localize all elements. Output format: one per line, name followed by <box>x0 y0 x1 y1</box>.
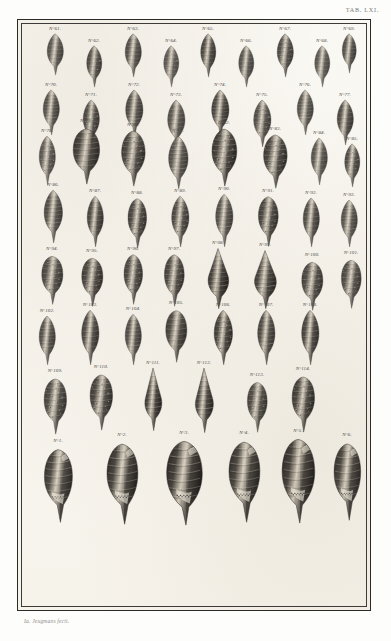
engraver-signature: Ia. Jeugmans fecit. <box>24 618 69 624</box>
shell-illustration <box>122 196 152 250</box>
plate-figure: N°102. <box>32 308 62 366</box>
figure-number-label: N°103. <box>83 302 98 307</box>
plate-figure: N°104. <box>118 306 148 366</box>
plate-figure: N°105. <box>160 300 192 364</box>
shell-illustration <box>40 32 70 76</box>
figure-number-label: N°2. <box>117 432 127 437</box>
shell-illustration <box>160 436 208 526</box>
plate-figure: N°87. <box>80 188 110 248</box>
figure-number-label: N°111. <box>146 360 160 365</box>
figure-number-label: N°110. <box>94 364 108 369</box>
plate-figure: N°64. <box>157 38 185 88</box>
shell-illustration <box>256 132 294 190</box>
figure-number-label: N°5. <box>293 428 303 433</box>
shell-illustration <box>36 252 68 306</box>
shell-illustration <box>290 88 320 136</box>
figure-number-label: N°70. <box>45 82 57 87</box>
figure-number-label: N°88. <box>131 190 143 195</box>
plate-figure: N°111. <box>136 360 170 432</box>
figure-number-label: N°65. <box>202 26 214 31</box>
figure-number-label: N°1. <box>53 438 63 443</box>
plate-figure: N°91. <box>252 188 284 248</box>
shell-illustration <box>294 308 326 366</box>
shell-illustration <box>38 374 72 436</box>
shell-illustration <box>246 248 284 310</box>
shell-illustration <box>336 32 362 74</box>
figure-number-label: N°80. <box>127 122 139 127</box>
figure-number-label: N°114. <box>296 366 310 371</box>
plate-figure: N°108. <box>294 302 326 366</box>
figure-number-label: N°112. <box>197 360 211 365</box>
shell-illustration <box>160 306 192 364</box>
figure-number-label: N°68. <box>316 38 328 43</box>
figure-number-label: N°90. <box>218 186 230 191</box>
plate-figure: N°80. <box>114 122 152 188</box>
shell-illustration <box>204 126 244 188</box>
plate-figure: N°107. <box>250 302 282 366</box>
shell-illustration <box>242 378 272 434</box>
figure-number-label: N°89. <box>174 188 186 193</box>
figure-number-label: N°3. <box>179 430 189 435</box>
figure-number-label: N°87. <box>89 188 101 193</box>
shell-illustration <box>114 128 152 188</box>
figure-number-label: N°94. <box>46 246 58 251</box>
figure-number-label: N°72. <box>128 82 140 87</box>
plate-figure: N°113. <box>242 372 272 434</box>
plate-figure: N°94. <box>36 246 68 306</box>
shell-illustration <box>252 194 284 248</box>
plate-figure: N°101. <box>336 250 366 310</box>
shell-illustration <box>296 196 326 248</box>
shell-illustration <box>32 134 62 186</box>
plate-figure: N°88. <box>122 190 152 250</box>
figure-number-label: N°93. <box>343 192 355 197</box>
plate-figure: N°78. <box>32 128 62 186</box>
figure-number-label: N°71. <box>85 92 97 97</box>
figure-number-label: N°82. <box>218 120 230 125</box>
shell-illustration <box>74 308 106 366</box>
plate-figure: N°85. <box>338 136 366 188</box>
figure-number-label: N°61. <box>49 26 61 31</box>
figure-number-label: N°84. <box>313 130 325 135</box>
shell-illustration <box>157 44 185 88</box>
figure-number-label: N°101. <box>344 250 359 255</box>
plate-figure: N°90. <box>208 186 240 248</box>
plate-figure: N°5. <box>276 428 320 524</box>
plate-figure: N°96. <box>118 246 148 306</box>
plate-figure: N°6. <box>328 432 366 522</box>
figure-number-label: N°95. <box>86 248 98 253</box>
figure-number-label: N°73. <box>170 92 182 97</box>
shell-illustration <box>186 366 222 434</box>
plate-figure: N°63. <box>118 26 148 78</box>
plate-figure: N°110. <box>84 364 118 432</box>
figure-number-label: N°106. <box>216 302 231 307</box>
plate-figure: N°68. <box>308 38 336 88</box>
shell-illustration <box>270 32 300 78</box>
figure-number-label: N°107. <box>259 302 274 307</box>
figure-number-label: N°108. <box>303 302 318 307</box>
plate-figure: N°2. <box>100 432 144 526</box>
shell-illustration <box>194 32 222 78</box>
shell-illustration <box>338 142 366 188</box>
shell-illustration <box>206 308 240 366</box>
plate-figure: N°97. <box>158 246 190 308</box>
figure-number-label: N°75. <box>256 92 268 97</box>
figure-number-label: N°83. <box>269 126 281 131</box>
plate-figure: N°4. <box>222 430 266 524</box>
plate-figure: N°3. <box>160 430 208 526</box>
shell-illustration <box>32 314 62 366</box>
shell-illustration <box>66 124 106 186</box>
plate-figure: N°83. <box>256 126 294 190</box>
shell-illustration <box>38 444 78 524</box>
plate-figure: N°79. <box>66 118 106 186</box>
figure-number-label: N°62. <box>88 38 100 43</box>
shell-illustration <box>118 312 148 366</box>
figure-number-label: N°105. <box>169 300 184 305</box>
figure-number-label: N°104. <box>126 306 141 311</box>
shell-illustration <box>100 438 144 526</box>
plate-figure: N°95. <box>76 248 108 308</box>
shell-illustration <box>232 44 260 88</box>
plate-figure: N°1. <box>38 438 78 524</box>
plate-figure: N°84. <box>304 130 334 186</box>
figure-number-label: N°74. <box>214 82 226 87</box>
shell-illustration <box>80 194 110 248</box>
